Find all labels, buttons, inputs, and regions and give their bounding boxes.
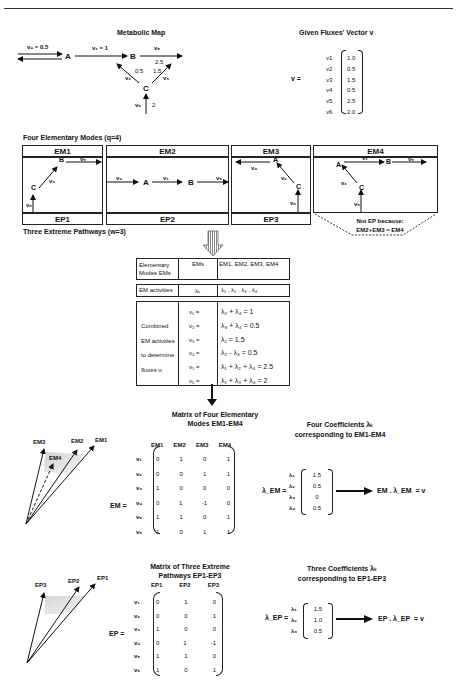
ep-coefficients-values: 1.51.00.5	[306, 604, 330, 637]
ep-coefficients-title: Three Coefficients λₖ corresponding to E…	[277, 564, 407, 584]
ep-matrix-col-headers: EP1EP2EP3	[151, 582, 219, 588]
ep-coefficients-lhs: λ_EP =	[265, 614, 288, 621]
ep-coefficients-row-labels: λ₁λ₂λ₃	[291, 604, 297, 637]
ep-cone-label-ep2: EP2	[68, 578, 79, 584]
em-result-equation: EM . λ_EM = v	[377, 487, 425, 494]
ep-cone-label-ep1: EP1	[97, 575, 108, 581]
ep-matrix-values: 010 001 100 01-1 110 101	[156, 596, 216, 677]
ep-matrix-lhs: EP =	[109, 630, 124, 637]
ep-cone-label-ep3: EP3	[35, 582, 46, 588]
ep-matrix-row-labels: v₁v₂v₃v₄v₅v₆	[134, 596, 140, 677]
ep-result-equation: EP . λ_EP = v	[378, 615, 424, 622]
